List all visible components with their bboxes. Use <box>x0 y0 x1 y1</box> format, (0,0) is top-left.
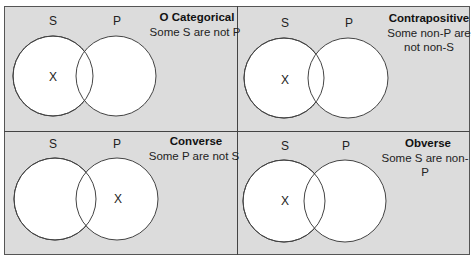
panel-title: O Categorical <box>155 11 239 23</box>
x-mark: X <box>281 194 289 208</box>
label-s: S <box>49 137 57 151</box>
x-mark: X <box>281 73 289 87</box>
panel-statement: Some S are not P <box>149 25 241 39</box>
panel-statement-line-1: Some non-P are <box>386 26 472 40</box>
panel-title: Obverse <box>388 137 468 149</box>
circle-p <box>308 38 388 118</box>
label-p: P <box>345 16 353 30</box>
x-mark: X <box>114 192 122 206</box>
label-p: P <box>342 139 350 153</box>
circle-p <box>304 160 386 242</box>
panel-statement-line-2: not non-S <box>386 40 472 54</box>
circle-p <box>76 36 156 116</box>
label-s: S <box>281 139 289 153</box>
panel-o-categorical: S P X O Categorical Some S are not P <box>5 7 237 131</box>
panel-obverse: S P X Obverse Some S are non-P <box>238 132 470 256</box>
panel-title: Converse <box>153 135 239 147</box>
panel-title: Contrapositive <box>388 12 470 24</box>
panel-contrapositive: S P X Contrapositive Some non-P are not … <box>238 7 470 131</box>
panel-statement: Some S are non-P <box>378 151 472 179</box>
panel-statement: Some P are not S <box>147 149 241 163</box>
label-s: S <box>49 14 57 28</box>
label-s: S <box>281 16 289 30</box>
label-p: P <box>113 14 121 28</box>
panel-converse: S P X Converse Some P are not S <box>5 132 237 256</box>
label-p: P <box>113 137 121 151</box>
x-mark: X <box>49 70 57 84</box>
